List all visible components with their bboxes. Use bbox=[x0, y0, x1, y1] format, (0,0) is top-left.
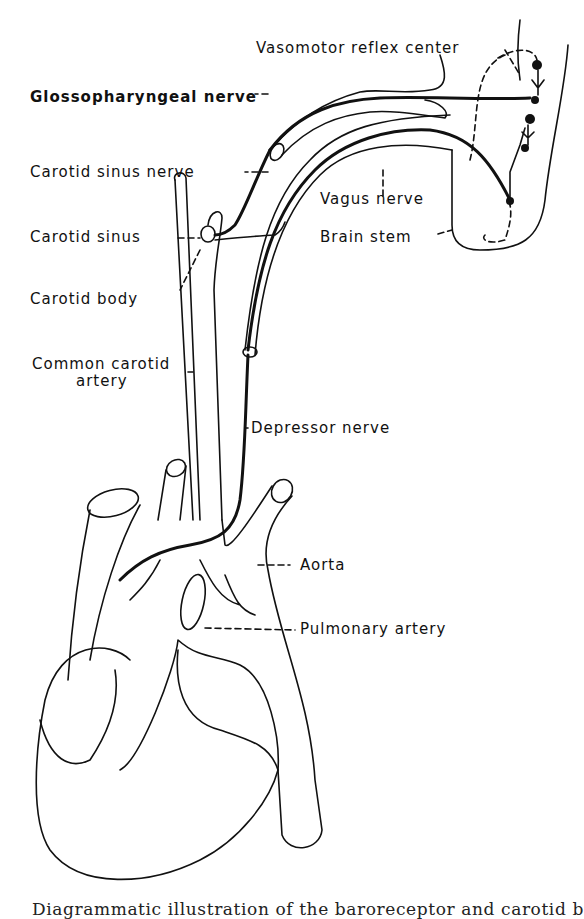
heart bbox=[36, 456, 322, 879]
figure-caption: Diagrammatic illustration of the barorec… bbox=[32, 899, 584, 919]
label-common-carotid-line2: artery bbox=[76, 373, 128, 389]
depressor-nerve-path bbox=[120, 355, 248, 580]
leader-lines bbox=[178, 94, 452, 428]
glossopharyngeal-nerve-path bbox=[215, 55, 530, 235]
label-vagus-nerve: Vagus nerve bbox=[320, 191, 424, 207]
label-carotid-sinus-nerve: Carotid sinus nerve bbox=[30, 164, 195, 180]
label-glossopharyngeal-nerve: Glossopharyngeal nerve bbox=[30, 89, 257, 105]
label-vasomotor-reflex-center: Vasomotor reflex center bbox=[256, 40, 459, 56]
label-carotid-sinus: Carotid sinus bbox=[30, 229, 141, 245]
label-aorta: Aorta bbox=[300, 557, 345, 573]
label-pulmonary-artery: Pulmonary artery bbox=[300, 621, 446, 637]
label-brain-stem: Brain stem bbox=[320, 229, 412, 245]
label-common-carotid-line1: Common carotid bbox=[32, 356, 170, 372]
common-carotid-artery bbox=[175, 173, 222, 520]
label-carotid-body: Carotid body bbox=[30, 291, 138, 307]
label-depressor-nerve: Depressor nerve bbox=[251, 420, 390, 436]
vasomotor-neurons bbox=[470, 50, 544, 242]
